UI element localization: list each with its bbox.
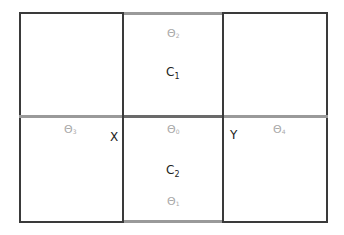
outer-bottom-left-border [19,221,124,223]
vertical-line-x [122,12,124,223]
theta-0-label: Θ0 [167,124,180,135]
theta-1-label: Θ1 [167,196,180,207]
point-y-label: Y [230,129,237,141]
middle-gray-right [223,115,328,118]
theta-2-label: Θ2 [167,28,180,39]
outer-bottom-right-border [223,221,328,223]
bottom-gray-edge [123,220,224,223]
top-gray-edge [123,12,224,15]
vertical-line-y [222,12,224,223]
outer-top-left-border [19,12,124,14]
grid-diagram: Θ2 C1 Θ3 X Θ0 Y Θ4 C2 Θ1 [0,0,344,235]
cell-c1-label: C1 [166,66,179,81]
point-x-label: X [110,131,118,143]
middle-gray-left [19,115,124,118]
outer-top-right-border [223,12,328,14]
middle-dark-center [123,115,224,118]
theta-4-label: Θ4 [273,124,286,135]
cell-c2-label: C2 [166,164,179,179]
theta-3-label: Θ3 [64,124,77,135]
